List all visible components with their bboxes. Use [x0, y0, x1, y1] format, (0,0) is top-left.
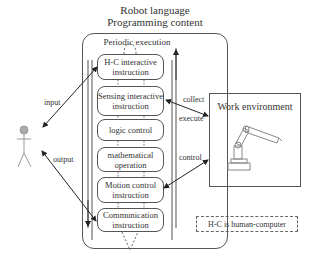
- work-environment-title: Work environment: [209, 100, 301, 113]
- stick-figure-icon: [17, 126, 31, 167]
- control-label: control: [179, 153, 202, 162]
- collect-label: collect: [183, 95, 204, 104]
- legend-text: H-C is human-computer: [208, 220, 286, 229]
- legend-box: H-C is human-computer: [196, 216, 298, 232]
- execute-label: execute: [179, 114, 203, 123]
- output-label: output: [53, 155, 73, 164]
- input-label: input: [44, 98, 60, 107]
